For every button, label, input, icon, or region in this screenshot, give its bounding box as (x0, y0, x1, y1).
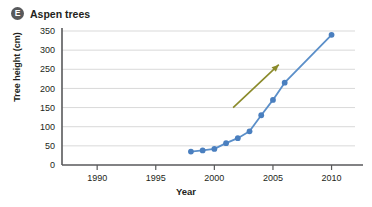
x-tick-label: 2005 (263, 173, 283, 183)
series-line (191, 35, 332, 152)
y-tick-label: 0 (50, 160, 55, 170)
plot-area: 050100150200250300350 199019952000200520… (0, 0, 372, 207)
x-tick-label: 2010 (322, 173, 342, 183)
data-point-marker (282, 80, 288, 86)
data-point-marker (223, 140, 229, 146)
data-point-marker (235, 135, 241, 141)
y-tick-label: 350 (40, 26, 55, 36)
data-point-marker (247, 128, 253, 134)
x-tick-label: 1990 (87, 173, 107, 183)
y-tick-label: 150 (40, 103, 55, 113)
data-point-marker (200, 148, 206, 154)
data-point-marker (270, 97, 276, 103)
y-tick-label: 300 (40, 45, 55, 55)
y-axis-ticks: 050100150200250300350 (40, 26, 55, 170)
data-point-marker (329, 32, 335, 38)
chart-figure: E Aspen trees Tree height (cm) Year 0501… (0, 0, 372, 207)
data-point-marker (211, 146, 217, 152)
data-point-marker (188, 149, 194, 155)
data-point-marker (258, 112, 264, 118)
y-tick-label: 200 (40, 84, 55, 94)
y-tick-label: 50 (45, 141, 55, 151)
x-tick-label: 1995 (146, 173, 166, 183)
y-tick-label: 250 (40, 64, 55, 74)
gridlines (62, 31, 355, 146)
x-tick-label: 2000 (204, 173, 224, 183)
x-axis-ticks: 19901995200020052010 (87, 165, 341, 183)
y-tick-label: 100 (40, 122, 55, 132)
